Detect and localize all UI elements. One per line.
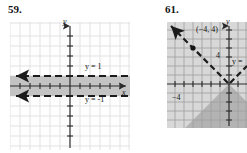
point-marker <box>190 45 195 50</box>
graph-59-svg <box>10 22 130 150</box>
figure-59: 59. <box>0 0 132 153</box>
figure-59-number: 59. <box>8 3 22 15</box>
figure-59-x-axis-label: x <box>122 88 126 97</box>
label-point-neg4-4: (−4, 4) <box>196 25 218 34</box>
graph-61-svg <box>167 22 247 128</box>
figure-59-y-axis-label: y <box>63 17 67 26</box>
label-y-equals-1: y = 1 <box>85 62 102 71</box>
label-y-equals-neg1: y = -1 <box>85 95 104 104</box>
figure-61-y-axis-label: y <box>226 17 230 26</box>
figure-61: 61. <box>160 0 247 153</box>
label-y-tick-4: 4 <box>216 51 220 60</box>
figure-59-plot <box>10 22 130 150</box>
figure-61-number: 61. <box>165 3 179 15</box>
label-x-tick-neg4: −4 <box>172 93 181 102</box>
label-edge-y-equals: y = <box>232 57 243 66</box>
figure-61-plot <box>167 22 247 128</box>
